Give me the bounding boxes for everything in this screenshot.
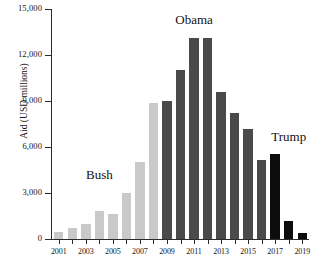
bar-2016: [257, 160, 266, 239]
y-tick-label: 15,000: [18, 3, 42, 13]
annotation-bush: Bush: [86, 167, 113, 183]
bar-2018: [284, 221, 293, 239]
x-tick-mark: [113, 240, 114, 244]
x-tick-mark: [72, 240, 73, 244]
bar-2012: [203, 38, 212, 239]
x-tick-label: 2013: [213, 247, 229, 256]
bar-2004: [95, 211, 104, 239]
bar-2008: [149, 103, 158, 239]
bar-2015: [243, 129, 252, 239]
y-tick-label: 3,000: [22, 187, 42, 197]
x-tick-label: 2001: [51, 247, 67, 256]
bar-2007: [135, 162, 144, 239]
x-tick-mark: [235, 240, 236, 244]
y-tick-label: 12,000: [18, 49, 42, 59]
x-tick-mark: [59, 240, 60, 244]
x-axis-line: [51, 239, 309, 240]
bar-2011: [189, 38, 198, 239]
x-tick-mark: [181, 240, 182, 244]
x-tick-mark: [99, 240, 100, 244]
x-tick-mark: [194, 240, 195, 244]
x-tick-mark: [262, 240, 263, 244]
bar-2017: [270, 154, 279, 239]
x-tick-mark: [221, 240, 222, 244]
x-tick-mark: [248, 240, 249, 244]
annotation-trump: Trump: [271, 129, 306, 145]
bar-2019: [298, 233, 307, 239]
x-tick-label: 2009: [159, 247, 175, 256]
x-tick-mark: [86, 240, 87, 244]
y-tick-mark: [45, 55, 51, 56]
y-tick-mark: [45, 9, 51, 10]
x-tick-mark: [153, 240, 154, 244]
y-tick-mark: [45, 239, 51, 240]
x-tick-mark: [208, 240, 209, 244]
bar-chart-figure: Aid (USD millions) 03,0006,0009,00012,00…: [0, 0, 312, 269]
y-tick-label: 0: [38, 233, 42, 243]
plot-area: [52, 9, 309, 239]
y-tick-mark: [45, 193, 51, 194]
x-tick-label: 2019: [294, 247, 310, 256]
x-tick-mark: [126, 240, 127, 244]
bar-2006: [122, 193, 131, 239]
x-tick-label: 2011: [186, 247, 201, 256]
x-tick-mark: [275, 240, 276, 244]
x-tick-label: 2005: [105, 247, 121, 256]
bar-2001: [54, 232, 63, 239]
x-tick-label: 2017: [267, 247, 283, 256]
annotation-obama: Obama: [175, 12, 213, 28]
x-tick-label: 2007: [132, 247, 148, 256]
y-tick-mark: [45, 147, 51, 148]
x-tick-mark: [289, 240, 290, 244]
bar-2013: [216, 92, 225, 239]
x-tick-mark: [140, 240, 141, 244]
y-tick-label: 9,000: [22, 95, 42, 105]
bar-2014: [230, 113, 239, 239]
x-tick-label: 2015: [240, 247, 256, 256]
bar-2009: [162, 101, 171, 239]
x-tick-label: 2003: [78, 247, 94, 256]
bar-2005: [108, 214, 117, 239]
x-tick-mark: [167, 240, 168, 244]
bar-2002: [68, 228, 77, 239]
x-tick-mark: [302, 240, 303, 244]
y-tick-label: 6,000: [22, 141, 42, 151]
y-tick-mark: [45, 101, 51, 102]
bar-2003: [81, 224, 90, 239]
bar-2010: [176, 70, 185, 239]
